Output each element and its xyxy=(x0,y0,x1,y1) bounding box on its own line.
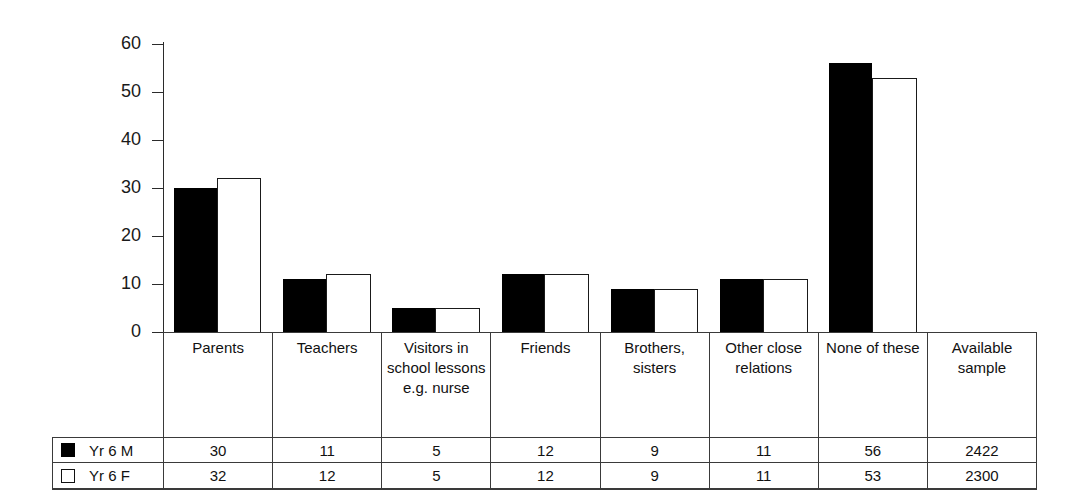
y-tick-mark xyxy=(152,236,163,237)
category-label: Friends xyxy=(491,333,600,437)
y-tick-mark xyxy=(152,332,163,333)
y-tick-label: 0 xyxy=(131,321,141,341)
bar-group xyxy=(163,44,272,332)
category-label: Visitors in school lessons e.g. nurse xyxy=(382,333,491,437)
y-tick-label: 10 xyxy=(121,273,141,293)
y-tick-label: 30 xyxy=(121,177,141,197)
bar-yr6m xyxy=(174,188,217,332)
bar-yr6m xyxy=(611,289,654,332)
y-tick-mark xyxy=(152,284,163,285)
bar-pair xyxy=(611,44,698,332)
bar-group xyxy=(600,44,709,332)
data-cell: 56 xyxy=(819,438,928,462)
data-cell: 12 xyxy=(491,463,600,488)
bar-group xyxy=(491,44,600,332)
bar-yr6f xyxy=(872,78,917,332)
bar-yr6f xyxy=(217,178,262,332)
bar-pair xyxy=(174,44,261,332)
y-tick-mark xyxy=(152,92,163,93)
bar-yr6m xyxy=(283,279,326,332)
data-cell: 9 xyxy=(601,438,710,462)
category-label: None of these xyxy=(819,333,928,437)
data-value-table: Yr 6 M3011512911562422Yr 6 F321251291153… xyxy=(52,437,1037,490)
bar-group xyxy=(928,44,1037,332)
legend-label: Yr 6 M xyxy=(89,442,133,459)
data-cell: 5 xyxy=(382,438,491,462)
table-row: Yr 6 F3212512911532300 xyxy=(53,463,1036,488)
bar-group xyxy=(272,44,381,332)
bar-chart-figure: 6050403020100 ParentsTeachersVisitors in… xyxy=(0,0,1083,499)
data-cell: 5 xyxy=(382,463,491,488)
bar-pair xyxy=(392,44,479,332)
y-tick-label: 50 xyxy=(121,81,141,101)
bar-yr6m xyxy=(502,274,545,332)
bar-yr6f xyxy=(326,274,371,332)
bar-group xyxy=(382,44,491,332)
data-cell: 11 xyxy=(273,438,382,462)
category-label: Brothers, sisters xyxy=(601,333,710,437)
table-row: Yr 6 M3011512911562422 xyxy=(53,438,1036,463)
category-label: Available sample xyxy=(928,333,1037,437)
data-cell: 12 xyxy=(273,463,382,488)
bar-group xyxy=(709,44,818,332)
bar-yr6m xyxy=(392,308,435,332)
bar-pair xyxy=(829,44,916,332)
legend-label: Yr 6 F xyxy=(89,467,130,484)
bar-yr6m xyxy=(720,279,763,332)
data-cell: 11 xyxy=(710,463,819,488)
data-cell: 11 xyxy=(710,438,819,462)
category-label: Teachers xyxy=(273,333,382,437)
data-cell: 9 xyxy=(601,463,710,488)
category-label-table: ParentsTeachersVisitors in school lesson… xyxy=(163,332,1037,437)
legend-cell: Yr 6 M xyxy=(53,438,164,462)
bar-pair xyxy=(720,44,807,332)
data-cell: 2300 xyxy=(928,463,1036,488)
bar-group xyxy=(819,44,928,332)
bar-yr6f xyxy=(435,308,480,332)
legend-swatch-filled-square-icon xyxy=(61,443,75,457)
y-tick-label: 20 xyxy=(121,225,141,245)
legend-swatch-hollow-square-icon xyxy=(61,469,75,483)
bar-yr6m xyxy=(829,63,872,332)
bar-yr6f xyxy=(763,279,808,332)
bar-yr6f xyxy=(654,289,699,332)
data-cell: 32 xyxy=(164,463,273,488)
y-tick-mark xyxy=(152,140,163,141)
data-cell: 53 xyxy=(819,463,928,488)
y-tick-mark xyxy=(152,44,163,45)
category-label: Parents xyxy=(164,333,273,437)
category-label: Other close relations xyxy=(710,333,819,437)
bar-pair xyxy=(283,44,370,332)
data-cell: 30 xyxy=(164,438,273,462)
data-cell: 12 xyxy=(491,438,600,462)
y-tick-label: 40 xyxy=(121,129,141,149)
legend-cell: Yr 6 F xyxy=(53,463,164,488)
bar-yr6f xyxy=(544,274,589,332)
y-tick-mark xyxy=(152,188,163,189)
bar-columns xyxy=(163,44,1037,332)
data-cell: 2422 xyxy=(928,438,1036,462)
y-tick-label: 60 xyxy=(121,33,141,53)
bar-pair xyxy=(502,44,589,332)
